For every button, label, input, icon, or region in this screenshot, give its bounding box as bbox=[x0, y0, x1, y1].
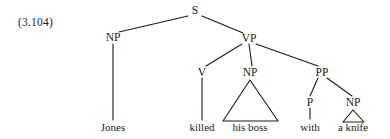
leaf-jones: Jones bbox=[101, 121, 125, 133]
leaf-killed: killed bbox=[189, 121, 215, 133]
branch-vp-to-v bbox=[206, 44, 242, 66]
node-v: V bbox=[198, 66, 207, 78]
branch-pp-to-np-oblique bbox=[327, 78, 352, 96]
node-s: S bbox=[192, 4, 198, 16]
branch-vp-to-pp bbox=[256, 44, 318, 66]
example-number: (3.104) bbox=[18, 16, 53, 28]
node-np-subject: NP bbox=[106, 31, 121, 43]
branch-pp-to-p bbox=[310, 78, 318, 96]
node-p: P bbox=[307, 96, 313, 108]
leaf-a-knife: a knife bbox=[338, 121, 368, 133]
node-np-object: NP bbox=[243, 66, 258, 78]
branch-s-to-vp bbox=[202, 16, 243, 33]
triangle-np-object bbox=[223, 80, 278, 121]
node-np-oblique: NP bbox=[346, 96, 361, 108]
branch-s-to-np-subject bbox=[119, 16, 188, 32]
syntax-tree-figure: (3.104) S NP VP V NP PP P NP bbox=[0, 0, 390, 139]
tree-diagram: S NP VP V NP PP P NP Jones killed his bo… bbox=[0, 0, 390, 139]
leaf-his-boss: his boss bbox=[232, 121, 267, 133]
branch-vp-to-np-object bbox=[249, 44, 252, 66]
node-vp: VP bbox=[242, 32, 257, 44]
node-pp: PP bbox=[316, 66, 329, 78]
leaf-with: with bbox=[300, 121, 320, 133]
